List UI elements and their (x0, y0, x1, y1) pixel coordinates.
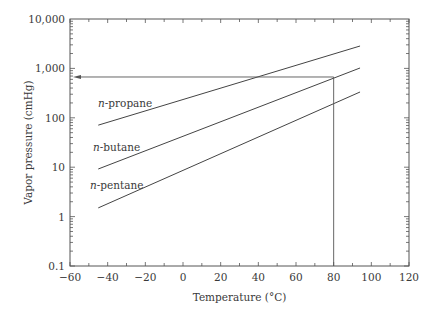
series-line-propane (98, 46, 360, 125)
x-tick-label: 120 (399, 271, 419, 283)
y-axis-title: Vapor pressure (cmHg) (22, 80, 34, 205)
series-label-propane: n-propane (98, 97, 152, 109)
y-tick-label: 1,000 (35, 62, 65, 74)
y-tick-label: 100 (45, 112, 65, 124)
arrowhead-icon (73, 75, 81, 79)
axis-tick-labels: −60−40−200204060801001200.11101001,00010… (28, 13, 419, 283)
x-tick-label: 80 (327, 271, 340, 283)
x-tick-label: 20 (214, 271, 227, 283)
y-tick-label: 1 (58, 211, 65, 223)
series-line-butane (98, 68, 360, 169)
chart-canvas: −60−40−200204060801001200.11101001,00010… (0, 0, 437, 317)
x-tick-label: 60 (289, 271, 302, 283)
series-label-pentane: n-pentane (90, 179, 143, 191)
x-axis-title: Temperature (°C) (193, 291, 287, 303)
x-tick-label: 0 (180, 271, 187, 283)
series-label-butane: n-butane (93, 141, 140, 153)
x-tick-label: 40 (252, 271, 265, 283)
x-tick-label: −40 (97, 271, 119, 283)
y-tick-label: 0.1 (48, 260, 65, 272)
data-series: n-propanen-butanen-pentane (90, 46, 360, 208)
x-tick-label: 100 (361, 271, 381, 283)
x-tick-label: −20 (134, 271, 156, 283)
y-tick-label: 10,000 (28, 13, 65, 25)
x-tick-label: −60 (59, 271, 81, 283)
vapor-pressure-chart: −60−40−200204060801001200.11101001,00010… (0, 0, 437, 317)
y-tick-label: 10 (52, 161, 65, 173)
